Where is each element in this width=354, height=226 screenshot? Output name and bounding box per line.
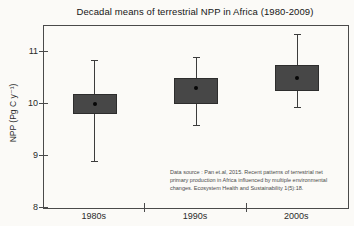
box-1990s [174, 78, 218, 104]
y-tick-mark-8 [39, 207, 48, 208]
chart-root: Decadal means of terrestrial NPP in Afri… [0, 0, 354, 226]
y-tick-label-8: 8 [16, 202, 38, 212]
whisker-cap-bottom-1980s [91, 161, 98, 162]
x-category-1990s: 1990s [165, 211, 225, 221]
whisker-cap-top-1990s [193, 57, 200, 58]
chart-title: Decadal means of terrestrial NPP in Afri… [36, 6, 354, 17]
y-tick-label-11: 11 [16, 46, 38, 56]
data-source-note: Data source : Pan et.al, 2015. Recent pa… [170, 169, 342, 193]
y-tick-mark-11 [39, 51, 48, 52]
y-tick-mark-9 [39, 155, 48, 156]
whisker-cap-bottom-2000s [294, 107, 301, 108]
whisker-cap-top-1980s [91, 60, 98, 61]
whisker-cap-bottom-1990s [193, 125, 200, 126]
mean-dot-1980s [93, 102, 97, 106]
whisker-cap-top-2000s [294, 34, 301, 35]
y-tick-label-10: 10 [16, 98, 38, 108]
x-category-2000s: 2000s [266, 211, 326, 221]
y-tick-mark-10 [39, 103, 48, 104]
x-category-1980s: 1980s [64, 211, 124, 221]
x-boundary-tick-1 [144, 203, 145, 212]
y-tick-label-9: 9 [16, 150, 38, 160]
x-boundary-tick-2 [246, 203, 247, 212]
